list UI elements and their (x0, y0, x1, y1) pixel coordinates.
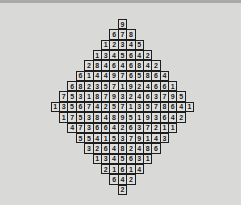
grid-cell[interactable]: 8 (126, 29, 135, 39)
grid-row: 1345642 (93, 50, 153, 60)
grid-row: 326482486 (84, 143, 161, 153)
grid-cell[interactable]: 1 (168, 123, 177, 133)
grid-row: 9 (118, 19, 127, 29)
grid-row: 2 (118, 185, 127, 195)
grid-cell[interactable]: 1 (185, 102, 194, 112)
grid-cell[interactable]: 2 (143, 50, 152, 60)
grid-cell[interactable]: 4 (135, 164, 144, 174)
grid-row: 175384895193642 (59, 112, 186, 122)
grid-cell[interactable]: 3 (160, 133, 169, 143)
grid-row: 4736642637211 (67, 123, 177, 133)
grid-cell[interactable]: 9 (118, 19, 127, 29)
grid-row: 12345 (101, 40, 144, 50)
grid-row: 6823571924661 (67, 81, 177, 91)
diamond-number-grid: 9678123451345642284646842614497658646823… (0, 0, 241, 205)
grid-row: 55415379143 (76, 133, 169, 143)
grid-row: 1345631 (93, 154, 153, 164)
grid-row: 13567425713578641 (51, 102, 195, 112)
grid-cell[interactable]: 1 (168, 81, 177, 91)
grid-row: 284646842 (84, 60, 161, 70)
grid-cell[interactable]: 1 (143, 154, 152, 164)
grid-cell[interactable]: 2 (176, 112, 185, 122)
grid-cell[interactable]: 4 (160, 71, 169, 81)
grid-row: 21614 (101, 164, 144, 174)
grid-row: 61449765864 (76, 71, 169, 81)
grid-cell[interactable]: 5 (176, 91, 185, 101)
grid-row: 753187932463795 (59, 91, 186, 101)
grid-cell[interactable]: 2 (126, 174, 135, 184)
grid-cell[interactable]: 6 (151, 143, 160, 153)
grid-cell[interactable]: 5 (135, 40, 144, 50)
grid-cell[interactable]: 2 (151, 60, 160, 70)
grid-row: 642 (109, 174, 135, 184)
grid-cell[interactable]: 2 (118, 185, 127, 195)
grid-row: 678 (109, 29, 135, 39)
